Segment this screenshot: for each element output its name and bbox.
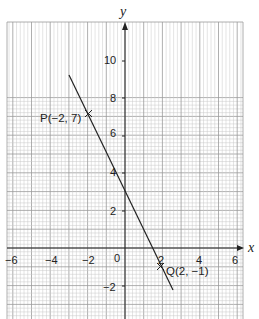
graph-canvas: x y −6 −4 −2 0 2 4 6 10 8 6 4 2 −2 P(−2,…: [0, 0, 259, 319]
y-axis-arrow-icon: [122, 22, 128, 30]
y-tick-label: 4: [110, 166, 116, 178]
y-axis-label: y: [118, 4, 127, 19]
x-tick-label: −4: [45, 254, 58, 266]
y-tick-label: 2: [110, 205, 116, 217]
x-tick-label: 6: [232, 254, 238, 266]
x-axis-label: x: [247, 240, 255, 255]
x-tick-label: −2: [82, 254, 95, 266]
y-tick-label: 10: [104, 54, 116, 66]
y-tick-label: 8: [110, 92, 116, 104]
point-p-label: P(−2, 7): [40, 112, 81, 124]
y-tick-label: −2: [103, 281, 116, 293]
x-tick-labels: −6 −4 −2 0 2 4 6: [5, 252, 238, 266]
x-tick-label: −6: [5, 254, 18, 266]
y-tick-label: 6: [110, 127, 116, 139]
point-q-label: Q(2, −1): [166, 265, 209, 277]
origin-label: 0: [114, 252, 120, 264]
